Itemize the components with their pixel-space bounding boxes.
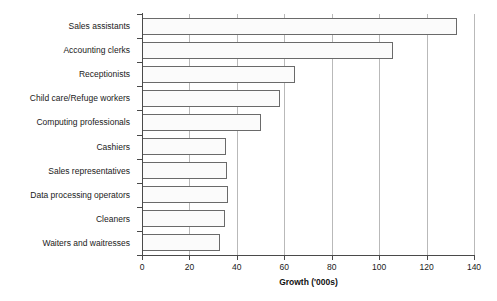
plot-area [142,14,474,255]
bar [142,162,227,179]
bar-row [142,186,474,203]
category-label: Accounting clerks [63,45,130,55]
bar [142,90,280,107]
x-axis-line [142,255,475,256]
y-axis-line [142,13,143,256]
category-label: Child care/Refuge workers [30,93,130,103]
category-label: Waiters and waitresses [42,238,130,248]
x-axis-tick-label-120: 120 [419,262,433,272]
category-label: Sales assistants [69,21,130,31]
y-axis-tick [137,86,142,87]
x-axis-tick-40 [237,256,238,260]
bar-row [142,114,474,131]
bar-chart: Sales assistantsAccounting clerksRecepti… [0,0,497,301]
category-label: Cleaners [96,214,130,224]
bar [142,114,261,131]
bar [142,138,226,155]
x-axis-tick-140 [474,256,475,260]
bar-row [142,18,474,35]
x-axis-tick-label-0: 0 [140,262,145,272]
bar-row [142,66,474,83]
bar [142,210,225,227]
y-axis-tick [137,135,142,136]
x-axis-tick-60 [284,256,285,260]
y-axis-tick [137,207,142,208]
x-axis-title: Growth ('000s) [142,277,475,287]
category-label: Cashiers [96,142,130,152]
x-axis-tick-label-20: 20 [185,262,194,272]
x-axis-tick-label-40: 40 [232,262,241,272]
bar-row [142,42,474,59]
category-axis: Sales assistantsAccounting clerksRecepti… [0,14,136,255]
x-axis-tick-100 [379,256,380,260]
x-axis-tick-label-100: 100 [372,262,386,272]
y-axis-tick [137,231,142,232]
bar [142,18,457,35]
y-axis-tick [137,110,142,111]
x-axis-tick-0 [142,256,143,260]
category-label: Sales representatives [48,166,130,176]
y-axis-tick [137,183,142,184]
category-label: Data processing operators [30,190,130,200]
bar [142,66,295,83]
x-axis-tick-20 [189,256,190,260]
bar-row [142,90,474,107]
y-axis-tick [137,14,142,15]
x-axis-tick-label-60: 60 [280,262,289,272]
x-axis-tick-120 [427,256,428,260]
bar [142,234,220,251]
x-axis-tick-label-80: 80 [327,262,336,272]
x-axis-tick-80 [332,256,333,260]
y-axis-tick [137,62,142,63]
bar [142,186,228,203]
bar [142,42,393,59]
bar-row [142,138,474,155]
y-axis-tick [137,159,142,160]
category-label: Receptionists [79,69,130,79]
category-label: Computing professionals [36,117,130,127]
bar-row [142,210,474,227]
plot-top-edge [142,14,474,15]
bar-row [142,234,474,251]
gridline-140 [474,14,475,255]
x-axis-tick-label-140: 140 [467,262,481,272]
y-axis-tick [137,38,142,39]
bar-row [142,162,474,179]
